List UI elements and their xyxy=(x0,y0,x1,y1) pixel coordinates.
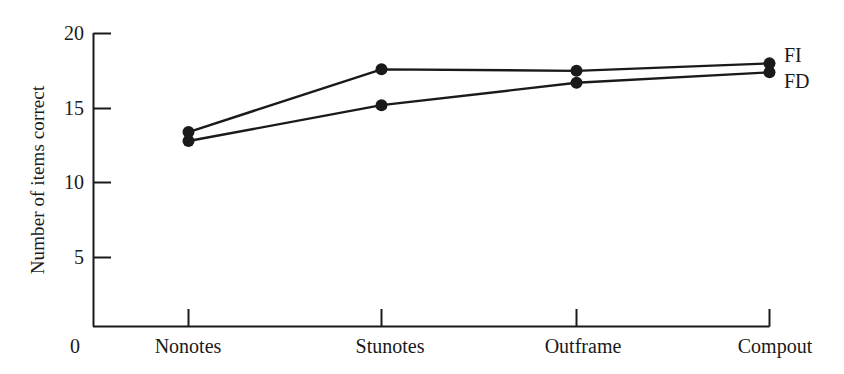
series-line-fd xyxy=(189,72,770,141)
series-layer xyxy=(183,57,776,147)
data-point-fi-outframe xyxy=(571,65,583,77)
line-chart-figure: Number of items correct 20 15 10 5 0 Non… xyxy=(0,0,844,374)
data-point-fd-stunotes xyxy=(376,99,388,111)
data-point-fd-outframe xyxy=(571,77,583,89)
series-line-fi xyxy=(189,63,770,132)
data-point-fi-stunotes xyxy=(376,63,388,75)
data-point-fd-compout xyxy=(764,66,776,78)
plot-area xyxy=(0,0,844,374)
data-point-fd-nonotes xyxy=(183,135,195,147)
